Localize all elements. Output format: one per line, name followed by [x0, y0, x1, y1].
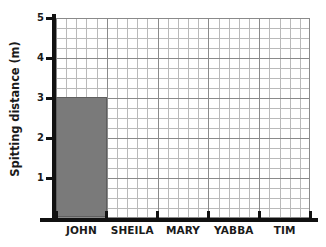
- bars-layer: [56, 18, 309, 217]
- x-tick-4: [258, 211, 261, 219]
- x-tick-label-yabba: YABBA: [208, 224, 259, 236]
- y-tick-2: [46, 137, 53, 140]
- y-axis-title: Spitting distance (m): [0, 0, 30, 218]
- y-tick-1: [46, 177, 53, 180]
- x-tick-label-sheila: SHEILA: [107, 224, 158, 236]
- x-tick-3: [207, 211, 210, 219]
- y-tick-label-5: 5: [30, 13, 44, 23]
- x-axis-line: [40, 218, 318, 222]
- x-tick-5: [309, 211, 312, 219]
- y-axis-title-text: Spitting distance (m): [8, 41, 22, 176]
- y-axis-line: [52, 14, 56, 222]
- y-tick-5: [46, 17, 53, 20]
- bar-chart: Spitting distance (m) 12345 JOHNSHEILAMA…: [0, 0, 326, 247]
- x-tick-label-mary: MARY: [158, 224, 209, 236]
- y-tick-3: [46, 97, 53, 100]
- y-tick-label-3: 3: [30, 93, 44, 103]
- plot-area: [56, 18, 310, 218]
- x-tick-0: [55, 211, 58, 219]
- x-tick-2: [156, 211, 159, 219]
- y-tick-label-1: 1: [30, 173, 44, 183]
- x-tick-label-tim: TIM: [259, 224, 310, 236]
- y-tick-4: [46, 57, 53, 60]
- x-tick-1: [105, 211, 108, 219]
- y-tick-label-2: 2: [30, 133, 44, 143]
- x-tick-label-john: JOHN: [56, 224, 107, 236]
- bar-john: [56, 97, 107, 217]
- y-tick-label-4: 4: [30, 53, 44, 63]
